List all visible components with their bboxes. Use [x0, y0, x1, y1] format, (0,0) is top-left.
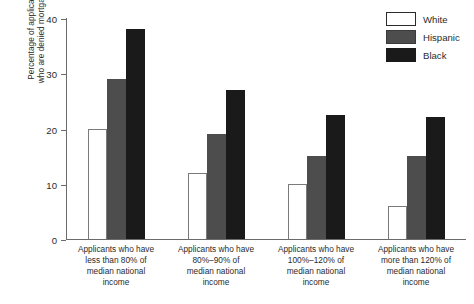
- legend-item[interactable]: Hispanic: [386, 30, 460, 44]
- legend-label: Hispanic: [423, 32, 460, 43]
- y-tick-label: 0: [52, 235, 57, 246]
- y-axis-label-line-2: who are denied mortgages: [36, 0, 46, 83]
- bar-chart: Percentage of applicants who are denied …: [0, 0, 474, 304]
- bar-white: [288, 184, 307, 239]
- bar-group: [66, 18, 166, 239]
- category-label-line: more than 120% of: [368, 255, 464, 266]
- y-tick-mark: [61, 240, 66, 241]
- category-label-line: Applicants who have: [268, 244, 364, 255]
- category-label-line: Applicants who have: [68, 244, 164, 255]
- category-label-line: median national: [268, 266, 364, 277]
- category-label-line: income: [168, 277, 264, 288]
- legend-swatch-hispanic: [386, 30, 416, 44]
- y-tick-label: 40: [46, 14, 57, 25]
- legend-label: Black: [423, 50, 446, 61]
- bar-hispanic: [207, 134, 226, 239]
- bar-black: [326, 115, 345, 239]
- bar-group: [266, 18, 366, 239]
- bar-black: [426, 117, 445, 239]
- y-axis-label-line-1: Percentage of applicants: [26, 0, 36, 83]
- category-label-line: less than 80% of: [68, 255, 164, 266]
- category-label-line: Applicants who have: [168, 244, 264, 255]
- y-tick-label: 10: [46, 179, 57, 190]
- y-tick-label: 30: [46, 69, 57, 80]
- x-axis-category-labels: Applicants who haveless than 80% ofmedia…: [66, 244, 466, 302]
- bar-black: [226, 90, 245, 239]
- chart-legend: WhiteHispanicBlack: [386, 12, 460, 62]
- legend-swatch-white: [386, 12, 416, 26]
- category-label-line: income: [68, 277, 164, 288]
- bar-hispanic: [107, 79, 126, 239]
- category-label-line: income: [268, 277, 364, 288]
- category-label-line: 100%–120% of: [268, 255, 364, 266]
- bar-hispanic: [307, 156, 326, 239]
- legend-label: White: [423, 14, 448, 25]
- bar-black: [126, 29, 145, 239]
- legend-item[interactable]: White: [386, 12, 460, 26]
- bar-hispanic: [407, 156, 426, 239]
- category-label-line: median national: [68, 266, 164, 277]
- bar-white: [388, 206, 407, 239]
- y-tick-label: 20: [46, 124, 57, 135]
- category-label: Applicants who have100%–120% ofmedian na…: [266, 244, 366, 302]
- category-label-line: median national: [168, 266, 264, 277]
- category-label-line: median national: [368, 266, 464, 277]
- category-label-line: 80%–90% of: [168, 255, 264, 266]
- x-axis-line: [66, 239, 466, 240]
- category-label-line: Applicants who have: [368, 244, 464, 255]
- legend-item[interactable]: Black: [386, 48, 460, 62]
- category-label: Applicants who havemore than 120% ofmedi…: [366, 244, 466, 302]
- bar-white: [188, 173, 207, 239]
- category-label: Applicants who have80%–90% ofmedian nati…: [166, 244, 266, 302]
- category-label: Applicants who haveless than 80% ofmedia…: [66, 244, 166, 302]
- bar-group: [166, 18, 266, 239]
- bar-white: [88, 129, 107, 240]
- category-label-line: income: [368, 277, 464, 288]
- legend-swatch-black: [386, 48, 416, 62]
